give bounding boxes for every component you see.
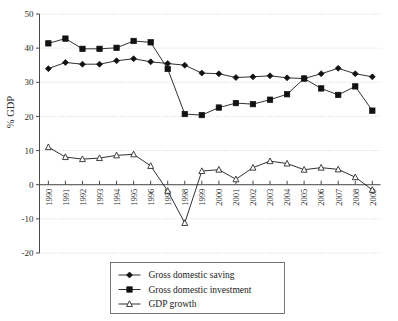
x-tick-label: 2003	[265, 189, 275, 206]
y-axis-ticks	[36, 14, 40, 253]
data-point-marker	[114, 45, 119, 50]
data-point-marker	[80, 46, 85, 51]
data-point-marker	[131, 56, 137, 62]
data-point-marker	[199, 70, 205, 76]
data-point-marker	[250, 101, 255, 106]
legend-item-label: GDP growth	[149, 299, 197, 309]
data-point-marker	[97, 46, 102, 51]
data-point-marker	[46, 41, 51, 46]
data-point-marker	[63, 36, 68, 41]
x-tick-label: 1991	[61, 189, 71, 206]
data-point-marker	[353, 84, 358, 89]
x-tick-label: 1995	[129, 189, 139, 206]
data-point-marker	[335, 65, 341, 71]
data-point-marker	[165, 66, 170, 71]
data-point-marker	[45, 66, 51, 72]
series-line	[48, 59, 372, 79]
data-point-marker	[199, 112, 204, 117]
data-point-marker	[250, 74, 256, 80]
axis-lines	[40, 14, 381, 253]
data-point-marker	[336, 92, 341, 97]
line-chart: -20-1001020304050 1990199119921993199419…	[0, 0, 398, 321]
legend-item-label: Gross domestic investment	[149, 285, 252, 295]
data-point-marker	[79, 61, 85, 67]
x-tick-label: 1993	[95, 189, 105, 206]
data-point-marker	[97, 61, 103, 67]
data-point-marker	[352, 174, 358, 180]
data-point-marker	[216, 105, 221, 110]
data-point-marker	[352, 71, 358, 77]
data-point-marker	[284, 75, 290, 81]
data-point-marker	[114, 58, 120, 64]
legend-item-label: Gross domestic saving	[149, 270, 235, 280]
y-tick-label: 40	[25, 43, 35, 53]
data-point-marker	[284, 92, 289, 97]
data-point-marker	[216, 166, 222, 172]
chart-legend: Gross domestic savingGross domestic inve…	[111, 263, 285, 314]
x-tick-label: 2000	[214, 189, 224, 206]
data-point-marker	[318, 71, 324, 77]
y-tick-label: -20	[22, 248, 34, 258]
x-tick-label: 1996	[146, 189, 156, 206]
data-point-marker	[182, 111, 187, 116]
x-tick-label: 1994	[112, 188, 122, 206]
gridlines	[40, 14, 381, 253]
x-tick-label: 2006	[316, 189, 326, 206]
x-tick-label: 1999	[197, 189, 207, 206]
data-point-marker	[318, 164, 324, 170]
y-tick-label: 10	[25, 146, 35, 156]
series-1	[45, 56, 375, 82]
x-tick-label: 2008	[351, 189, 361, 206]
data-point-marker	[369, 74, 375, 80]
data-point-marker	[267, 158, 273, 164]
data-point-marker	[182, 220, 188, 226]
data-point-marker	[318, 86, 323, 91]
x-tick-label: 2007	[334, 189, 344, 206]
x-tick-label: 2004	[282, 188, 292, 206]
data-point-marker	[233, 75, 239, 81]
data-point-marker	[301, 76, 306, 81]
data-point-marker	[233, 176, 239, 182]
data-point-marker	[233, 100, 238, 105]
data-point-marker	[62, 154, 68, 160]
y-axis-title-text: % GDP	[5, 96, 16, 129]
y-tick-label: 50	[25, 9, 35, 19]
data-point-marker	[131, 151, 137, 157]
data-point-marker	[148, 40, 153, 45]
data-point-marker	[267, 73, 273, 79]
data-point-marker	[62, 59, 68, 65]
data-point-marker	[267, 97, 272, 102]
x-axis-tick-labels: 1990199119921993199419951996199719981999…	[44, 188, 378, 206]
data-point-marker	[45, 144, 51, 150]
data-point-marker	[148, 163, 154, 169]
data-point-marker	[148, 59, 154, 65]
data-point-marker	[370, 108, 375, 113]
y-tick-label: 0	[29, 180, 34, 190]
data-point-marker	[182, 62, 188, 68]
y-tick-label: 20	[25, 112, 35, 122]
x-tick-label: 1998	[180, 189, 190, 206]
x-tick-label: 2005	[299, 189, 309, 206]
x-tick-label: 1992	[78, 189, 88, 206]
y-tick-label: 30	[25, 77, 35, 87]
x-axis-ticks	[48, 181, 372, 185]
data-point-marker	[127, 287, 132, 292]
x-tick-label: 2002	[248, 189, 258, 206]
x-tick-label: 2001	[231, 189, 241, 206]
data-point-marker	[131, 38, 136, 43]
y-axis-title: % GDP	[5, 96, 16, 129]
y-axis-tick-labels: -20-1001020304050	[22, 9, 35, 258]
x-tick-label: 1990	[44, 189, 54, 206]
data-point-marker	[216, 71, 222, 77]
y-tick-label: -10	[22, 214, 34, 224]
chart-figure: -20-1001020304050 1990199119921993199419…	[0, 0, 398, 321]
